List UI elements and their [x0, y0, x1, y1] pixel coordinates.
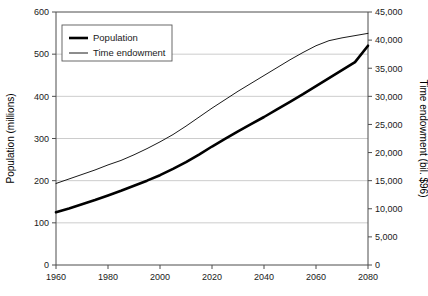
right-axis-title-text: Time endowment (bil. $96) — [418, 79, 428, 197]
left-tick-label: 500 — [34, 49, 49, 59]
x-tick-label: 2060 — [306, 272, 326, 282]
right-tick-label: 20,000 — [375, 148, 403, 158]
x-tick-label: 1980 — [98, 272, 118, 282]
chart-legend: PopulationTime endowment — [62, 25, 172, 61]
right-tick-label: 10,000 — [375, 204, 403, 214]
right-axis-title: Time endowment (bil. $96) — [418, 79, 428, 197]
series-line-population — [56, 46, 368, 213]
left-tick-label: 300 — [34, 134, 49, 144]
chart-container: 1960198020002020204020602080 01002003004… — [0, 0, 428, 296]
legend-label: Time endowment — [93, 47, 166, 58]
left-tick-label: 600 — [34, 7, 49, 17]
left-axis-title: Population (millions) — [5, 93, 16, 183]
left-axis-title-text: Population (millions) — [5, 93, 16, 183]
right-tick-label: 0 — [375, 260, 380, 270]
left-tick-label: 400 — [34, 92, 49, 102]
right-tick-label: 25,000 — [375, 120, 403, 130]
right-tick-label: 40,000 — [375, 35, 403, 45]
left-axis-ticks: 0100200300400500600 — [34, 7, 56, 270]
right-tick-label: 15,000 — [375, 176, 403, 186]
line-chart: 1960198020002020204020602080 01002003004… — [0, 0, 428, 296]
x-tick-label: 2020 — [202, 272, 222, 282]
right-tick-label: 5,000 — [375, 232, 398, 242]
x-tick-label: 2080 — [358, 272, 378, 282]
x-tick-label: 2000 — [150, 272, 170, 282]
right-axis-ticks: 05,00010,00015,00020,00025,00030,00035,0… — [368, 7, 403, 270]
right-tick-label: 30,000 — [375, 92, 403, 102]
x-tick-label: 2040 — [254, 272, 274, 282]
x-tick-label: 1960 — [46, 272, 66, 282]
legend-label: Population — [93, 32, 138, 43]
left-tick-label: 100 — [34, 218, 49, 228]
right-tick-label: 45,000 — [375, 7, 403, 17]
x-axis-ticks: 1960198020002020204020602080 — [46, 265, 378, 282]
right-tick-label: 35,000 — [375, 64, 403, 74]
left-tick-label: 0 — [44, 260, 49, 270]
left-tick-label: 200 — [34, 176, 49, 186]
